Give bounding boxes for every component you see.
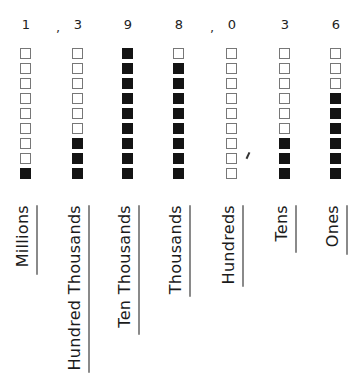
place-column-millions: 1Millions [6, 0, 46, 388]
empty-box [226, 108, 237, 119]
place-label-group: Tens [271, 205, 299, 253]
place-name-label: Millions [12, 205, 34, 267]
empty-box [20, 153, 31, 164]
filled-box [173, 138, 184, 149]
counter-boxes [226, 48, 238, 183]
filled-box [72, 138, 83, 149]
digit-label: 3 [265, 17, 305, 32]
empty-box [226, 48, 237, 59]
label-underline [36, 205, 38, 275]
place-label-group: Ten Thousands [114, 205, 142, 335]
filled-box [173, 63, 184, 74]
filled-box [20, 168, 31, 179]
empty-box [279, 108, 290, 119]
filled-box [330, 123, 341, 134]
empty-box [226, 93, 237, 104]
empty-box [20, 78, 31, 89]
place-label-group: Hundred Thousands [64, 205, 92, 373]
empty-box [20, 93, 31, 104]
counter-boxes [330, 48, 342, 183]
place-name-label: Thousands [165, 205, 187, 294]
place-name-label: Hundreds [218, 205, 240, 284]
filled-box [173, 153, 184, 164]
place-name-label: Ten Thousands [114, 205, 136, 328]
filled-box [72, 153, 83, 164]
filled-box [122, 153, 133, 164]
place-label-group: Thousands [165, 205, 193, 297]
place-label-group: Millions [12, 205, 40, 275]
empty-box [226, 138, 237, 149]
place-column-hundreds: 0Hundreds [212, 0, 252, 388]
place-name-label: Tens [271, 205, 293, 242]
label-underline [295, 205, 297, 253]
empty-box [72, 108, 83, 119]
digit-label: 8 [159, 17, 199, 32]
place-label-group: Hundreds [218, 205, 246, 287]
filled-box [173, 123, 184, 134]
place-column-hundred-thousands: 3Hundred Thousands [58, 0, 98, 388]
place-column-ten-thousands: 9Ten Thousands [108, 0, 148, 388]
digit-label: 6 [316, 17, 356, 32]
filled-box [122, 138, 133, 149]
counter-boxes [122, 48, 134, 183]
counter-boxes [173, 48, 185, 183]
filled-box [122, 168, 133, 179]
empty-box [226, 168, 237, 179]
place-column-ones: 6Ones [316, 0, 356, 388]
label-underline [138, 205, 140, 335]
filled-box [279, 168, 290, 179]
label-underline [346, 205, 348, 255]
empty-box [20, 108, 31, 119]
filled-box [279, 153, 290, 164]
label-underline [242, 205, 244, 287]
digit-label: 9 [108, 17, 148, 32]
filled-box [330, 108, 341, 119]
empty-box [330, 78, 341, 89]
empty-box [20, 48, 31, 59]
filled-box [173, 78, 184, 89]
digit-label: 1 [6, 17, 46, 32]
empty-box [72, 123, 83, 134]
empty-box [226, 63, 237, 74]
place-name-label: Hundred Thousands [64, 205, 86, 371]
filled-box [122, 108, 133, 119]
place-column-thousands: 8Thousands [159, 0, 199, 388]
place-name-label: Ones [322, 205, 344, 247]
filled-box [330, 93, 341, 104]
empty-box [72, 63, 83, 74]
filled-box [330, 138, 341, 149]
filled-box [122, 63, 133, 74]
empty-box [330, 63, 341, 74]
label-underline [88, 205, 90, 373]
filled-box [122, 78, 133, 89]
empty-box [279, 63, 290, 74]
place-label-group: Ones [322, 205, 350, 255]
digit-label: 3 [58, 17, 98, 32]
empty-box [72, 78, 83, 89]
filled-box [330, 168, 341, 179]
empty-box [279, 123, 290, 134]
empty-box [330, 48, 341, 59]
empty-box [20, 138, 31, 149]
empty-box [279, 78, 290, 89]
filled-box [72, 168, 83, 179]
empty-box [279, 48, 290, 59]
counter-boxes [20, 48, 32, 183]
empty-box [226, 123, 237, 134]
counter-boxes [279, 48, 291, 183]
filled-box [173, 108, 184, 119]
label-underline [189, 205, 191, 297]
empty-box [226, 153, 237, 164]
filled-box [173, 168, 184, 179]
filled-box [330, 153, 341, 164]
empty-box [279, 93, 290, 104]
empty-box [173, 48, 184, 59]
filled-box [122, 48, 133, 59]
filled-box [122, 93, 133, 104]
filled-box [122, 123, 133, 134]
filled-box [173, 93, 184, 104]
digit-label: 0 [212, 17, 252, 32]
place-column-tens: 3Tens [265, 0, 305, 388]
empty-box [72, 48, 83, 59]
thousands-separator: , [56, 20, 60, 35]
